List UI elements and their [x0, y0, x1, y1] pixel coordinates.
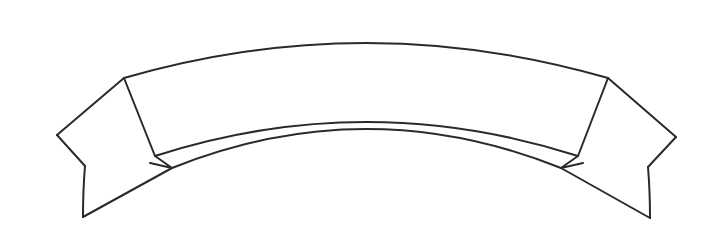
ribbon-banner-figure — [0, 0, 722, 252]
illustration-canvas — [0, 0, 722, 252]
